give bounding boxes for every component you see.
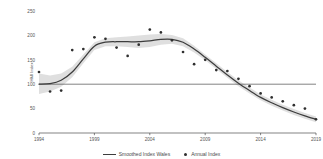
y-tick-label: 200 <box>27 33 35 38</box>
chart-plot-area: 050100150200250 199419992004200920142019… <box>0 0 323 159</box>
y-tick-label: 0 <box>32 131 35 136</box>
line-swatch-icon <box>103 154 116 155</box>
chart-container: 050100150200250 199419992004200920142019… <box>0 0 323 159</box>
y-tick-label: 250 <box>27 9 35 14</box>
x-axis-ticks: 199419992004200920142019 <box>34 133 322 142</box>
legend-label-smoothed: Smoothed Index Wales <box>119 151 171 157</box>
smoothed-index-line <box>39 39 316 119</box>
confidence-band <box>39 34 316 122</box>
x-tick-label: 2019 <box>311 137 322 142</box>
y-tick-label: 100 <box>27 82 35 87</box>
x-tick-label: 2014 <box>255 137 266 142</box>
y-axis-title: HMI Index <box>29 62 34 82</box>
x-tick-label: 2004 <box>145 137 156 142</box>
chart-legend: Smoothed Index Wales Annual Index <box>0 151 323 157</box>
x-tick-label: 1999 <box>89 137 100 142</box>
dot-swatch-icon <box>184 153 187 156</box>
y-tick-label: 150 <box>27 58 35 63</box>
x-tick-label: 1994 <box>34 137 45 142</box>
legend-item-smoothed[interactable]: Smoothed Index Wales <box>103 151 171 157</box>
y-tick-label: 50 <box>30 106 36 111</box>
legend-item-annual[interactable]: Annual Index <box>183 151 220 157</box>
legend-label-annual: Annual Index <box>191 151 220 157</box>
x-tick-label: 2009 <box>200 137 211 142</box>
